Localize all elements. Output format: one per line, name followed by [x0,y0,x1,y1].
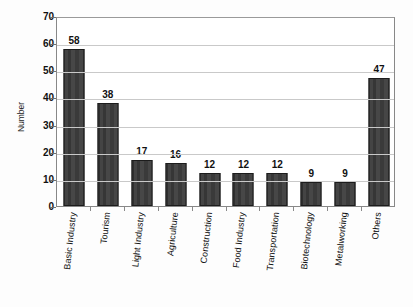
x-axis-label-slot: Metalworking [327,210,361,306]
bar [267,173,288,206]
bar-group: 12 [260,18,294,206]
gridline [57,99,394,100]
x-axis-category-label: Agriculture [165,211,180,256]
x-axis-label-slot: Food Industry [226,210,260,306]
x-axis-category-label: Construction [198,211,213,263]
bar [301,182,322,206]
bar-value-label: 38 [102,90,113,100]
x-axis-label-slot: Transportation [259,210,293,306]
x-axis-label-slot: Construction [192,210,226,306]
bar-group: 12 [193,18,227,206]
plot-area: 583817161212129947 [56,17,395,207]
bar-value-label: 12 [272,160,283,170]
bar-group: 16 [159,18,193,206]
x-axis-label-slot: Others [361,210,395,306]
x-axis-label-slot: Agriculture [158,210,192,306]
y-axis-tick-mark [50,44,56,45]
bar [233,173,254,206]
bar-group: 9 [294,18,328,206]
bar-group: 58 [57,18,91,206]
y-axis-tick-mark [50,153,56,154]
bar-value-label: 17 [136,147,147,157]
bar-value-label: 47 [373,65,384,75]
bar-group: 38 [91,18,125,206]
bar-group: 9 [328,18,362,206]
x-axis-category-label: Metalworking [333,211,349,266]
y-axis-title-text: Number [16,102,26,132]
y-axis-tick-mark [50,17,56,18]
x-axis-label-slot: Biotechnology [293,210,327,306]
x-axis-category-label: Basic Industry [62,211,78,270]
bar-value-label: 12 [204,160,215,170]
x-axis-category-label: Light Industry [130,211,146,267]
bar-group: 12 [227,18,261,206]
bar [165,163,186,206]
bar-group: 17 [125,18,159,206]
x-axis-category-labels: Basic IndustryTourismLight IndustryAgric… [56,210,395,306]
y-axis-tick-mark [50,98,56,99]
gridline [57,154,394,155]
bar-value-label: 58 [68,36,79,46]
bar-value-label: 9 [308,169,314,179]
plot-inner: 583817161212129947 [57,18,394,206]
y-axis-tick-mark [50,126,56,127]
gridline [57,127,394,128]
y-axis-tick-mark [50,71,56,72]
gridline [57,45,394,46]
gridline [57,72,394,73]
x-axis-label-slot: Tourism [90,210,124,306]
y-axis-tick-mark [50,180,56,181]
bar [131,160,152,206]
x-axis-category-label: Food Industry [232,211,248,268]
x-axis-label-slot: Basic Industry [56,210,90,306]
bar [369,78,390,206]
y-axis-tick-mark [50,207,56,208]
bar-value-label: 12 [238,160,249,170]
x-axis-category-label: Others [370,211,383,240]
bar-chart: Number 010203040506070 58381716121212994… [0,0,413,307]
bar [199,173,220,206]
y-axis-title: Number [14,82,28,152]
bar-group: 47 [362,18,396,206]
x-axis-category-label: Tourism [98,211,111,244]
x-axis-label-slot: Light Industry [124,210,158,306]
bar [335,182,356,206]
x-axis-category-label: Transportation [265,211,281,271]
bar-value-label: 9 [342,169,348,179]
gridline [57,181,394,182]
x-axis-category-label: Biotechnology [299,211,315,270]
